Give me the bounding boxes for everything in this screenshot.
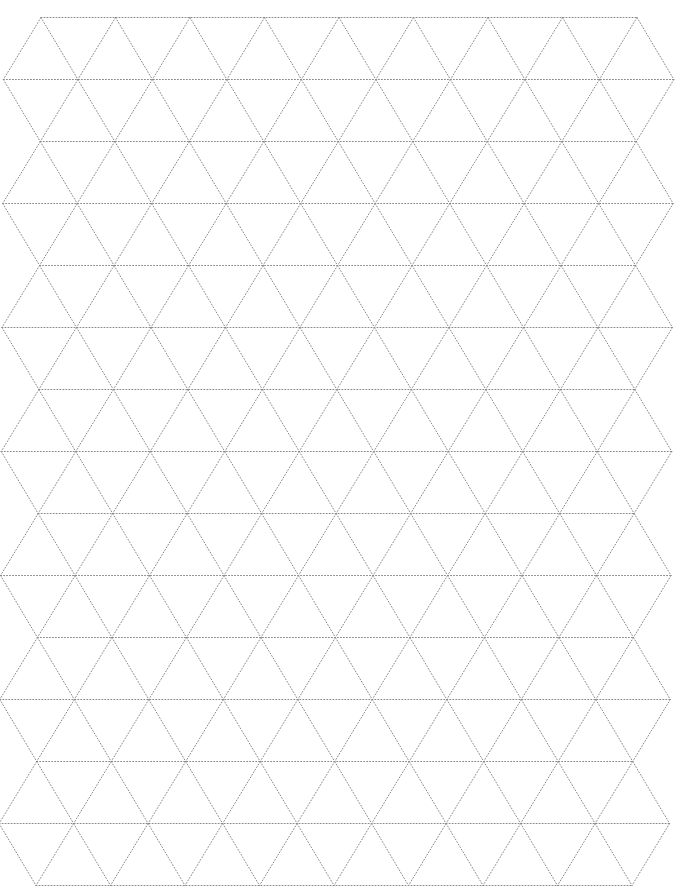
grid-diagonal-line: [595, 762, 633, 824]
grid-diagonal-line: [335, 700, 373, 762]
grid-diagonal-line: [151, 266, 189, 328]
grid-diagonal-line: [112, 638, 149, 700]
grid-diagonal-line: [37, 638, 74, 700]
grid-diagonal-line: [558, 700, 596, 762]
grid-diagonal-line: [636, 80, 674, 142]
grid-diagonal-line: [522, 514, 560, 576]
grid-diagonal-line: [560, 452, 598, 514]
grid-diagonal-line: [409, 700, 447, 762]
grid-diagonal-line: [78, 80, 115, 142]
grid-diagonal-line: [487, 142, 524, 204]
grid-diagonal-line: [448, 576, 485, 638]
grid-diagonal-line: [76, 390, 114, 452]
grid-diagonal-line: [0, 824, 36, 886]
grid-diagonal-line: [450, 204, 487, 266]
grid-diagonal-line: [372, 700, 409, 762]
grid-diagonal-line: [111, 700, 149, 762]
grid-diagonal-line: [41, 18, 78, 80]
grid-diagonal-line: [635, 328, 673, 390]
grid-diagonal-line: [635, 390, 672, 452]
grid-diagonal-line: [413, 80, 451, 142]
grid-diagonal-line: [411, 452, 449, 514]
grid-diagonal-line: [633, 762, 670, 824]
grid-diagonal-line: [223, 700, 260, 762]
grid-diagonal-line: [189, 204, 227, 266]
grid-diagonal-line: [78, 18, 116, 80]
grid-diagonal-line: [299, 390, 337, 452]
grid-diagonal-line: [149, 638, 187, 700]
grid-diagonal-line: [486, 390, 523, 452]
grid-diagonal-line: [151, 328, 188, 390]
grid-diagonal-line: [150, 452, 187, 514]
grid-diagonal-line: [75, 576, 112, 638]
grid-diagonal-line: [40, 204, 78, 266]
grid-diagonal-line: [411, 390, 448, 452]
grid-diagonal-line: [522, 576, 559, 638]
grid-diagonal-line: [447, 700, 484, 762]
grid-diagonal-line: [410, 576, 448, 638]
grid-diagonal-line: [0, 762, 37, 824]
grid-diagonal-line: [560, 328, 598, 390]
grid-diagonal-line: [186, 700, 224, 762]
grid-diagonal-line: [187, 514, 224, 576]
grid-diagonal-line: [116, 18, 153, 80]
grid-diagonal-line: [336, 452, 374, 514]
grid-diagonal-line: [562, 142, 599, 204]
grid-diagonal-line: [189, 266, 226, 328]
grid-diagonal-line: [410, 638, 447, 700]
grid-diagonal-line: [599, 204, 636, 266]
grid-diagonal-line: [37, 576, 75, 638]
grid-diagonal-line: [262, 452, 300, 514]
grid-diagonal-line: [374, 266, 412, 328]
grid-diagonal-line: [335, 638, 372, 700]
grid-diagonal-line: [186, 576, 224, 638]
grid-diagonal-line: [597, 390, 635, 452]
grid-diagonal-line: [374, 328, 411, 390]
grid-diagonal-line: [485, 452, 523, 514]
grid-diagonal-line: [152, 142, 190, 204]
grid-diagonal-line: [375, 142, 413, 204]
grid-diagonal-line: [76, 452, 113, 514]
grid-diagonal-line: [411, 514, 448, 576]
grid-diagonal-line: [525, 80, 562, 142]
grid-diagonal-line: [523, 266, 561, 328]
grid-diagonal-line: [1, 452, 38, 514]
grid-diagonal-line: [223, 824, 260, 886]
grid-diagonal-line: [299, 452, 336, 514]
grid-diagonal-line: [262, 328, 300, 390]
grid-diagonal-line: [113, 390, 150, 452]
grid-diagonal-line: [446, 824, 483, 886]
grid-diagonal-line: [39, 390, 76, 452]
grid-diagonal-line: [523, 452, 560, 514]
grid-diagonal-line: [150, 514, 188, 576]
grid-diagonal-line: [597, 452, 634, 514]
grid-diagonal-line: [413, 142, 450, 204]
grid-diagonal-line: [483, 824, 521, 886]
grid-diagonal-line: [525, 18, 563, 80]
grid-diagonal-line: [40, 80, 78, 142]
grid-diagonal-line: [633, 700, 671, 762]
grid-diagonal-line: [301, 18, 339, 80]
grid-diagonal-line: [335, 762, 372, 824]
grid-diagonal-line: [224, 576, 261, 638]
grid-diagonal-line: [449, 328, 486, 390]
grid-diagonal-line: [339, 18, 376, 80]
grid-diagonal-line: [226, 142, 264, 204]
grid-diagonal-line: [3, 80, 40, 142]
grid-diagonal-line: [373, 514, 411, 576]
grid-diagonal-line: [297, 762, 335, 824]
grid-diagonal-line: [265, 18, 302, 80]
grid-diagonal-line: [487, 80, 525, 142]
grid-diagonal-line: [521, 762, 559, 824]
grid-diagonal-line: [3, 18, 41, 80]
grid-diagonal-line: [487, 266, 524, 328]
grid-diagonal-line: [334, 824, 372, 886]
grid-diagonal-line: [150, 390, 188, 452]
grid-diagonal-line: [559, 638, 596, 700]
grid-diagonal-line: [409, 762, 446, 824]
grid-diagonal-line: [596, 700, 633, 762]
grid-diagonal-line: [374, 390, 412, 452]
grid-diagonal-line: [448, 514, 486, 576]
grid-diagonal-line: [77, 142, 115, 204]
grid-diagonal-line: [40, 142, 77, 204]
